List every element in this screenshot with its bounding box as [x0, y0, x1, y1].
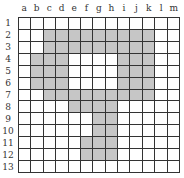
- cell-a12: [19, 149, 31, 161]
- cell-e5: [69, 66, 81, 78]
- cell-e12: [69, 149, 81, 161]
- cell-c10: [44, 125, 56, 137]
- cell-c8: [44, 101, 56, 113]
- column-label: i: [118, 2, 130, 14]
- cell-e6: [69, 78, 81, 90]
- cell-g6: [93, 78, 105, 90]
- cell-f7: [81, 90, 93, 102]
- cell-k12: [143, 149, 155, 161]
- cell-h13: [106, 161, 118, 173]
- cell-m13: [168, 161, 180, 173]
- cell-c7: [44, 90, 56, 102]
- cell-k11: [143, 137, 155, 149]
- cell-c9: [44, 113, 56, 125]
- cell-m5: [168, 66, 180, 78]
- cell-a13: [19, 161, 31, 173]
- cell-f5: [81, 66, 93, 78]
- cell-f4: [81, 54, 93, 66]
- cell-f8: [81, 101, 93, 113]
- row-label: 1: [0, 17, 16, 29]
- cell-b6: [31, 78, 43, 90]
- cell-m3: [168, 42, 180, 54]
- cell-b10: [31, 125, 43, 137]
- cell-a1: [19, 18, 31, 30]
- cell-i8: [118, 101, 130, 113]
- cell-h10: [106, 125, 118, 137]
- cell-b4: [31, 54, 43, 66]
- cell-f12: [81, 149, 93, 161]
- cell-h12: [106, 149, 118, 161]
- cell-m2: [168, 30, 180, 42]
- cell-b11: [31, 137, 43, 149]
- cell-b5: [31, 66, 43, 78]
- cell-g4: [93, 54, 105, 66]
- cell-i1: [118, 18, 130, 30]
- cell-l5: [155, 66, 167, 78]
- cell-a9: [19, 113, 31, 125]
- cell-i4: [118, 54, 130, 66]
- cell-k1: [143, 18, 155, 30]
- cell-i2: [118, 30, 130, 42]
- column-label: j: [130, 2, 142, 14]
- row-label: 6: [0, 77, 16, 89]
- cell-f3: [81, 42, 93, 54]
- cell-d3: [56, 42, 68, 54]
- column-label: l: [155, 2, 167, 14]
- column-label: f: [80, 2, 92, 14]
- cell-f2: [81, 30, 93, 42]
- cell-i6: [118, 78, 130, 90]
- cell-a3: [19, 42, 31, 54]
- cell-j2: [130, 30, 142, 42]
- cell-h3: [106, 42, 118, 54]
- cell-e10: [69, 125, 81, 137]
- cell-d12: [56, 149, 68, 161]
- cell-b13: [31, 161, 43, 173]
- cell-h4: [106, 54, 118, 66]
- grid-diagram: abcdefghijklm 12345678910111213: [0, 0, 184, 178]
- cell-m4: [168, 54, 180, 66]
- cell-c6: [44, 78, 56, 90]
- cell-k10: [143, 125, 155, 137]
- cell-e4: [69, 54, 81, 66]
- row-label: 2: [0, 29, 16, 41]
- cell-l3: [155, 42, 167, 54]
- cell-b7: [31, 90, 43, 102]
- cell-l2: [155, 30, 167, 42]
- cell-f10: [81, 125, 93, 137]
- cell-g2: [93, 30, 105, 42]
- cell-k6: [143, 78, 155, 90]
- cell-k7: [143, 90, 155, 102]
- cell-g9: [93, 113, 105, 125]
- cell-i13: [118, 161, 130, 173]
- column-label: b: [30, 2, 42, 14]
- cell-b1: [31, 18, 43, 30]
- cell-e7: [69, 90, 81, 102]
- cell-m8: [168, 101, 180, 113]
- cell-c12: [44, 149, 56, 161]
- cell-k4: [143, 54, 155, 66]
- cell-k13: [143, 161, 155, 173]
- cell-h7: [106, 90, 118, 102]
- cell-k3: [143, 42, 155, 54]
- row-label: 8: [0, 101, 16, 113]
- cell-f11: [81, 137, 93, 149]
- cell-i9: [118, 113, 130, 125]
- cell-a10: [19, 125, 31, 137]
- cell-g10: [93, 125, 105, 137]
- column-label: h: [105, 2, 117, 14]
- cell-j8: [130, 101, 142, 113]
- cell-l12: [155, 149, 167, 161]
- cell-i3: [118, 42, 130, 54]
- cell-l4: [155, 54, 167, 66]
- cell-b8: [31, 101, 43, 113]
- cell-c1: [44, 18, 56, 30]
- cell-h11: [106, 137, 118, 149]
- cell-c5: [44, 66, 56, 78]
- cell-m7: [168, 90, 180, 102]
- cell-h2: [106, 30, 118, 42]
- row-label: 4: [0, 53, 16, 65]
- cell-i5: [118, 66, 130, 78]
- cell-c3: [44, 42, 56, 54]
- cell-b3: [31, 42, 43, 54]
- cell-g5: [93, 66, 105, 78]
